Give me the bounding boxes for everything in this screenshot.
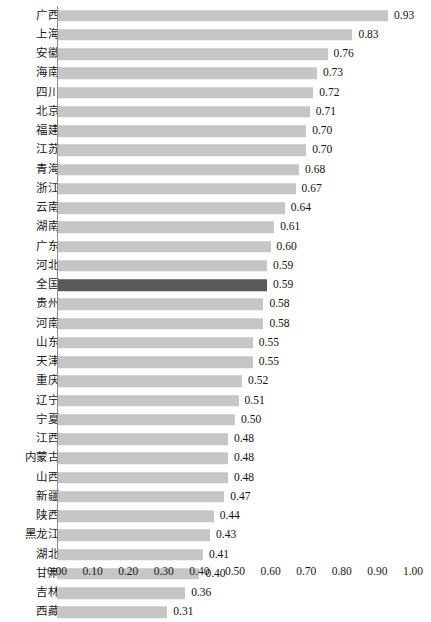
bar	[57, 318, 263, 330]
category-label: 贵州	[36, 299, 59, 311]
bar-fill	[57, 183, 296, 195]
bar	[57, 549, 203, 561]
bar	[57, 222, 274, 234]
bar-value-label: 0.52	[248, 376, 268, 388]
bar	[57, 164, 299, 176]
x-axis-tick: 0.80	[332, 566, 352, 578]
bar-value-label: 0.50	[241, 414, 261, 426]
bar-row: 辽宁0.51	[0, 391, 431, 410]
bar-fill	[57, 202, 285, 214]
bar-value-label: 0.70	[312, 125, 332, 137]
bar-row: 宁夏0.50	[0, 410, 431, 429]
bar-fill	[57, 87, 313, 99]
bar	[57, 125, 306, 137]
bar-row: 广东0.60	[0, 237, 431, 256]
bar-fill	[57, 414, 235, 426]
bar-row: 内蒙古0.48	[0, 449, 431, 468]
category-label: 河北	[36, 260, 59, 272]
bar-value-label: 0.44	[220, 510, 240, 522]
bar-fill	[57, 549, 203, 561]
bar	[57, 241, 271, 253]
bar	[57, 68, 317, 80]
bar-row: 全国0.59	[0, 276, 431, 295]
bar-value-label: 0.51	[245, 395, 265, 407]
x-axis-tick: 0.50	[225, 566, 245, 578]
bar	[57, 607, 167, 619]
x-axis-tick: 0.20	[118, 566, 138, 578]
bar-fill	[57, 29, 352, 41]
bar-row: 吉林0.36	[0, 584, 431, 603]
category-label: 四川	[36, 87, 59, 99]
bar-row: 贵州0.58	[0, 295, 431, 314]
bar-fill	[57, 260, 267, 272]
category-label: 湖南	[36, 222, 59, 234]
bar-fill	[57, 145, 306, 157]
bar-row: 江苏0.70	[0, 141, 431, 160]
x-axis-tick: 1.00	[403, 566, 423, 578]
category-label: 西藏	[36, 607, 59, 619]
category-label: 青海	[36, 164, 59, 176]
bar	[57, 587, 185, 599]
category-label: 湖北	[36, 549, 59, 561]
category-label: 安徽	[36, 48, 59, 60]
category-label: 天津	[36, 356, 59, 368]
bar-row: 新疆0.47	[0, 487, 431, 506]
x-axis-tick: 0.60	[261, 566, 281, 578]
bar-value-label: 0.48	[234, 453, 254, 465]
bar-row: 江西0.48	[0, 430, 431, 449]
category-label: 浙江	[36, 183, 59, 195]
bar-row: 上海0.83	[0, 25, 431, 44]
category-label: 福建	[36, 125, 59, 137]
category-label: 重庆	[36, 376, 59, 388]
category-label: 云南	[36, 202, 59, 214]
category-label: 北京	[36, 106, 59, 118]
bar	[57, 510, 214, 522]
category-label: 全国	[36, 279, 59, 291]
bar-fill	[57, 68, 317, 80]
x-axis-tick: 0.00	[47, 566, 67, 578]
x-axis-tick: 0.10	[83, 566, 103, 578]
bar-row: 青海0.68	[0, 160, 431, 179]
bar-fill	[57, 395, 239, 407]
bar	[57, 433, 228, 445]
category-label: 广西	[36, 10, 59, 22]
bar	[57, 87, 313, 99]
bar-value-label: 0.59	[273, 260, 293, 272]
bar	[57, 10, 388, 22]
bar-fill	[57, 241, 271, 253]
bar-value-label: 0.72	[319, 87, 339, 99]
bar-row: 西藏0.31	[0, 603, 431, 622]
bar-row: 天津0.55	[0, 353, 431, 372]
bar	[57, 48, 328, 60]
category-label: 内蒙古	[25, 453, 60, 465]
bar-row: 四川0.72	[0, 83, 431, 102]
bar-row: 安徽0.76	[0, 45, 431, 64]
bar-value-label: 0.47	[230, 491, 250, 503]
bar-row: 浙江0.67	[0, 179, 431, 198]
bar-row: 福建0.70	[0, 122, 431, 141]
bar-fill	[57, 299, 263, 311]
bar-fill	[57, 587, 185, 599]
bar-value-label: 0.48	[234, 433, 254, 445]
bar-fill	[57, 433, 228, 445]
bar	[57, 414, 235, 426]
bar	[57, 472, 228, 484]
bar-fill	[57, 530, 210, 542]
category-label: 广东	[36, 241, 59, 253]
category-label: 吉林	[36, 587, 59, 599]
bar-fill	[57, 48, 328, 60]
bar	[57, 337, 253, 349]
bar-row: 湖南0.61	[0, 218, 431, 237]
bar	[57, 299, 263, 311]
bar	[57, 106, 310, 118]
category-label: 江西	[36, 433, 59, 445]
bar-value-label: 0.41	[209, 549, 229, 561]
bar	[57, 145, 306, 157]
bar	[57, 183, 296, 195]
bar-fill	[57, 356, 253, 368]
bar-fill	[57, 106, 310, 118]
bar-row: 广西0.93	[0, 6, 431, 25]
category-label: 宁夏	[36, 414, 59, 426]
bar-row: 山西0.48	[0, 468, 431, 487]
